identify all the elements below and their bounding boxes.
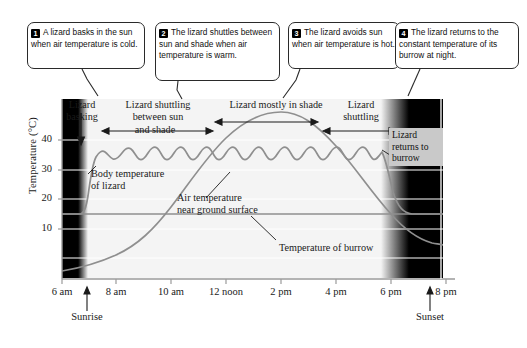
label-returns-burrow-line1: Lizard [392,129,440,141]
label-air-temperature-line2: near ground surface [177,204,258,216]
callout-text-3: The lizard avoids sun when air temperatu… [292,27,395,49]
lizard-thermoregulation-figure: 1A lizard basks in the sun when air temp… [0,0,527,348]
callout-box-4: 4The lizard returns to the constant temp… [395,22,519,69]
annotation-shuttling-evening: Lizard shuttling [333,99,389,124]
callout-number-1: 1 [31,29,40,38]
annotation-shuttling-evening-line2: shuttling [333,111,389,123]
annotation-shuttling-morning-line2: between sun [105,111,211,123]
label-body-temperature-line2: of lizard [91,180,164,192]
night-band-morning [62,99,88,278]
callout-box-2: 2The lizard shuttles between sun and sha… [155,22,280,81]
x-tick-marks [62,279,446,284]
callout-text-2: The lizard shuttles between sun and shad… [159,27,272,60]
label-lizard-returns-to-burrow: Lizard returns to burrow [389,128,443,166]
callout-box-3: 3The lizard avoids sun when air temperat… [288,22,400,69]
annotation-shuttling-evening-line1: Lizard [333,99,389,111]
annotation-shuttling-morning-line3: and shade [99,124,211,136]
annotation-lizard-basking-line1: Lizard [59,99,105,111]
label-returns-burrow-line3: burrow [392,152,440,164]
sun-event-arrows [84,287,433,311]
label-body-temperature: Body temperature of lizard [91,168,164,193]
annotation-shuttling-morning: Lizard shuttling between sun and shade [105,99,211,136]
night-band-evening [381,99,443,278]
label-body-temperature-line1: Body temperature [91,168,164,180]
annotation-lizard-basking: Lizard basking [59,99,105,124]
callout-text-4: The lizard returns to the constant tempe… [399,27,499,60]
annotation-shuttling-morning-line1: Lizard shuttling [105,99,211,111]
label-returns-burrow-line2: returns to [392,141,440,153]
callout-number-2: 2 [159,29,168,38]
label-air-temperature-line1: Air temperature [177,192,258,204]
label-burrow-temperature: Temperature of burrow [279,242,373,254]
callout-box-1: 1A lizard basks in the sun when air temp… [27,22,145,69]
annotation-lizard-basking-line2: basking [59,111,105,123]
label-air-temperature: Air temperature near ground surface [177,192,258,217]
callout-text-1: A lizard basks in the sun when air tempe… [31,27,138,49]
annotation-mostly-in-shade: Lizard mostly in shade [212,99,340,111]
callout-number-3: 3 [292,29,301,38]
callout-number-4: 4 [399,29,408,38]
